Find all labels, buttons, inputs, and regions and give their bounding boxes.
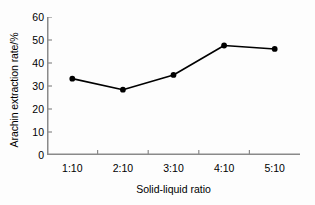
axis-lines (47, 17, 300, 155)
data-point-marker (221, 43, 227, 49)
y-axis-tick-label: 20 (22, 103, 44, 115)
line-chart-svg (47, 17, 300, 155)
x-axis-tick-label: 2:10 (98, 161, 148, 175)
y-axis-tick-label: 50 (22, 34, 44, 46)
data-series-line (72, 46, 274, 90)
x-axis-tick-label: 4:10 (199, 161, 249, 175)
y-axis-tick-label: 10 (22, 126, 44, 138)
data-point-marker (69, 76, 75, 82)
data-point-marker (272, 46, 278, 52)
x-axis-tick-label: 5:10 (250, 161, 300, 175)
y-axis-tick-label: 30 (22, 80, 44, 92)
y-axis-title: Arachin extraction rate/% (6, 10, 22, 170)
x-axis-tick-labels: 1:102:103:104:105:10 (47, 161, 300, 175)
y-axis-tick-labels: 0102030405060 (22, 0, 44, 205)
y-axis-tick-label: 0 (22, 149, 44, 161)
chart-figure: Arachin extraction rate/% 0102030405060 … (0, 0, 315, 205)
data-point-marker (120, 87, 126, 93)
plot-area (47, 17, 300, 155)
x-axis-title: Solid-liquid ratio (47, 182, 300, 196)
x-axis-tick-label: 1:10 (47, 161, 97, 175)
y-axis-tick-label: 40 (22, 57, 44, 69)
data-point-marker (171, 72, 177, 78)
y-axis-tick-label: 60 (22, 11, 44, 23)
x-axis-tick-label: 3:10 (149, 161, 199, 175)
